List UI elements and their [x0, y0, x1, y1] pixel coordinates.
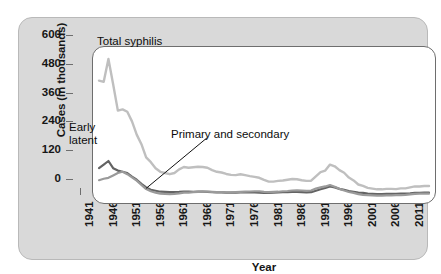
- y-tick-label: 480: [17, 58, 61, 69]
- annotation-early-latent: Earlylatent: [69, 121, 97, 146]
- x-tick-label: 1966: [202, 201, 213, 227]
- x-tick-label: 1946: [108, 201, 119, 227]
- x-tick-label: 1981: [273, 201, 284, 227]
- y-tick-mark: [66, 64, 73, 65]
- y-tick-mark: [66, 35, 73, 36]
- x-tick-mark: [80, 188, 81, 195]
- y-tick-label: 120: [17, 144, 61, 155]
- x-tick-label: 1971: [225, 201, 236, 227]
- x-tick-label: 1986: [296, 201, 307, 227]
- y-tick-label: 240: [17, 115, 61, 126]
- x-tick-label: 1951: [131, 201, 142, 227]
- x-tick-label: 2006: [390, 201, 401, 227]
- series-lines: [93, 47, 436, 204]
- y-tick-label: 0: [17, 173, 61, 184]
- y-tick-label: 600: [17, 29, 61, 40]
- x-tick-label: 1956: [155, 201, 166, 227]
- y-tick-mark: [66, 150, 73, 151]
- series-line-primary-and-secondary: [99, 172, 429, 196]
- series-line-total-syphilis: [99, 59, 429, 189]
- figure-root: Cases (in thousands) 0120240360480600 19…: [0, 0, 441, 274]
- annotation-total-syphilis: Total syphilis: [97, 35, 162, 48]
- plot-area: [92, 46, 436, 204]
- x-tick-label: 2011: [414, 202, 425, 227]
- x-tick-label: 1991: [320, 201, 331, 227]
- y-tick-label: 360: [17, 87, 61, 98]
- x-tick-label: 2001: [367, 201, 378, 227]
- y-tick-mark: [66, 93, 73, 94]
- y-tick-mark: [66, 179, 73, 180]
- annotation-primary-secondary: Primary and secondary: [171, 128, 289, 141]
- x-tick-label: 1996: [343, 201, 354, 227]
- x-tick-label: 1941: [84, 201, 95, 227]
- chart-panel: Cases (in thousands) 0120240360480600 19…: [18, 17, 428, 260]
- x-tick-label: 1961: [178, 201, 189, 227]
- leader-line-primary-secondary: [146, 137, 207, 188]
- x-axis-title: Year: [92, 261, 436, 273]
- x-tick-label: 1976: [249, 201, 260, 227]
